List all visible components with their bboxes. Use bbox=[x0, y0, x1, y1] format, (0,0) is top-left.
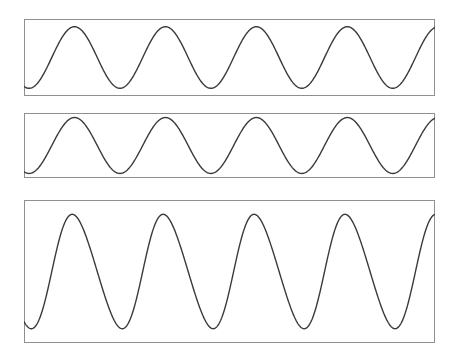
panel-bottom-plot-area bbox=[24, 200, 435, 343]
panel-top-plot-area bbox=[24, 19, 435, 96]
panel-top bbox=[24, 19, 435, 96]
panel-bottom bbox=[24, 200, 435, 343]
figure-canvas bbox=[0, 0, 460, 356]
panel-middle-frame bbox=[25, 114, 435, 178]
panel-middle-plot-area bbox=[24, 113, 435, 178]
panel-middle bbox=[24, 113, 435, 178]
panel-bottom-frame bbox=[25, 201, 435, 343]
panel-top-frame bbox=[25, 20, 435, 96]
